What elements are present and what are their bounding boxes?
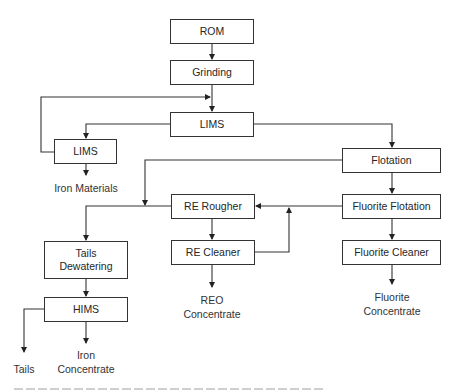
node-hims: HIMS <box>44 297 128 322</box>
node-tails-dewatering: Tails Dewatering <box>44 241 128 279</box>
figure-caption-cropped <box>14 386 324 391</box>
node-re-cleaner: RE Cleaner <box>171 240 255 265</box>
node-re-rougher: RE Rougher <box>171 194 255 219</box>
node-lims-secondary: LIMS <box>54 139 117 164</box>
node-fluorite-cleaner: Fluorite Cleaner <box>342 240 441 265</box>
node-fluorite-flotation: Fluorite Flotation <box>342 194 441 219</box>
product-iron-concentrate: Iron Concentrate <box>44 348 128 376</box>
product-tails: Tails <box>4 362 44 376</box>
product-iron-materials: Iron Materials <box>40 181 132 195</box>
node-flotation: Flotation <box>342 148 441 173</box>
node-rom: ROM <box>170 19 254 44</box>
product-reo-concentrate: REO Concentrate <box>170 293 254 321</box>
node-lims-main: LIMS <box>170 112 254 137</box>
product-fluorite-concentrate: Fluorite Concentrate <box>350 290 434 318</box>
node-grinding: Grinding <box>170 60 254 85</box>
